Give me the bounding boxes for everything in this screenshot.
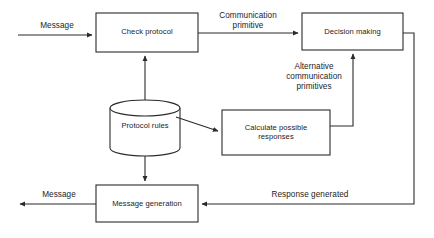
node-protocol-rules[interactable]: [110, 100, 180, 156]
diagram-canvas: Check protocol Decision making Protocol …: [0, 0, 434, 238]
edge-protocol-rules-to-calculate: [176, 117, 218, 131]
node-message-generation[interactable]: [96, 185, 198, 222]
node-check-protocol[interactable]: [96, 13, 198, 52]
node-calculate-possible-responses[interactable]: [222, 110, 330, 155]
edge-alternative-primitives: [330, 54, 353, 126]
node-decision-making[interactable]: [302, 13, 403, 50]
